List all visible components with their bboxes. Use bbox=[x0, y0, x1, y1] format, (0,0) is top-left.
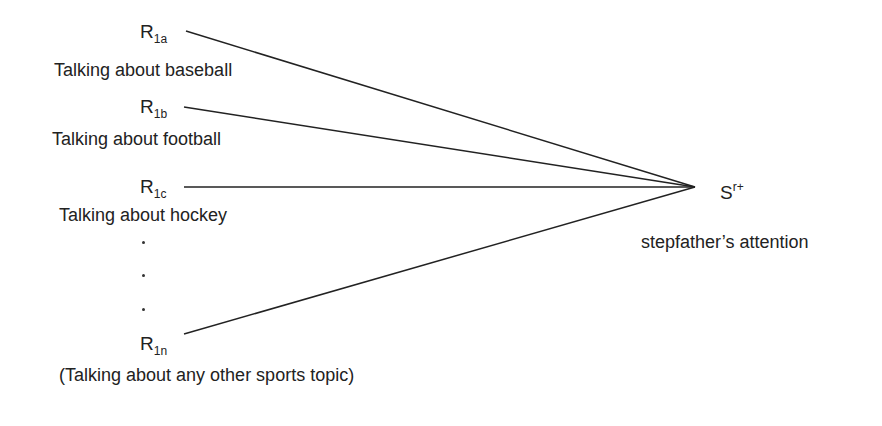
reinforcer-symbol: Sr+ bbox=[720, 181, 744, 202]
label-hockey: Talking about hockey bbox=[59, 206, 227, 224]
response-r1a: R1a bbox=[140, 22, 167, 45]
label-baseball: Talking about baseball bbox=[54, 61, 232, 79]
response-r1c: R1c bbox=[140, 177, 166, 200]
ellipsis-dot bbox=[142, 308, 145, 311]
response-r1b: R1b bbox=[140, 97, 167, 120]
ellipsis-dot bbox=[142, 274, 145, 277]
ellipsis-dot bbox=[142, 241, 145, 244]
reinforcer-label: stepfather’s attention bbox=[641, 233, 808, 251]
response-r1n: R1n bbox=[140, 334, 167, 357]
label-football: Talking about football bbox=[52, 130, 221, 148]
label-other-sports: (Talking about any other sports topic) bbox=[59, 366, 354, 384]
